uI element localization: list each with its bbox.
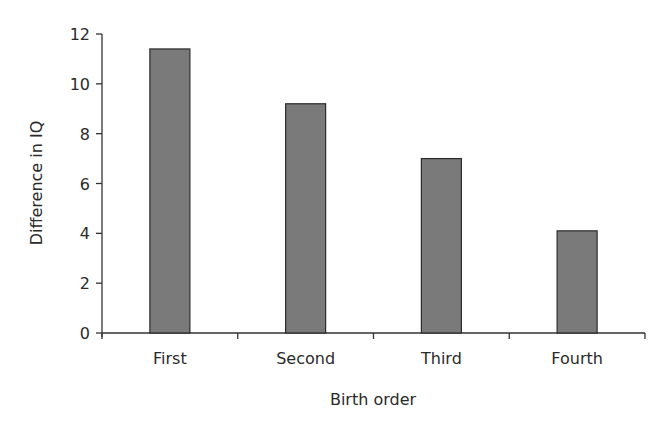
y-axis: 024681012 xyxy=(70,25,102,343)
x-tick-label: Second xyxy=(276,349,335,368)
y-tick-label: 8 xyxy=(80,125,90,144)
x-tick-label: Fourth xyxy=(551,349,603,368)
bar-third xyxy=(421,159,461,333)
y-tick-label: 10 xyxy=(70,75,90,94)
y-tick-label: 4 xyxy=(80,224,90,243)
bar-first xyxy=(150,49,190,333)
y-tick-label: 2 xyxy=(80,274,90,293)
bar-fourth xyxy=(557,231,597,333)
bar-chart: 024681012 FirstSecondThirdFourth Birth o… xyxy=(0,0,663,423)
x-tick-label: First xyxy=(153,349,187,368)
bar-second xyxy=(286,104,326,333)
x-tick-label: Third xyxy=(420,349,462,368)
y-tick-label: 12 xyxy=(70,25,90,44)
bars xyxy=(150,49,597,333)
y-tick-label: 0 xyxy=(80,324,90,343)
y-tick-label: 6 xyxy=(80,175,90,194)
x-axis: FirstSecondThirdFourth xyxy=(102,333,645,368)
y-axis-title: Difference in IQ xyxy=(27,121,46,246)
x-axis-title: Birth order xyxy=(330,390,417,409)
